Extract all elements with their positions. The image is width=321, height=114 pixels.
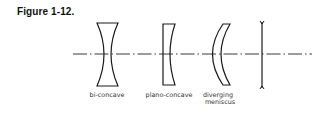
label-plano-concave: plano-concave <box>141 92 197 99</box>
plano-concave-lens <box>163 24 175 85</box>
label-bi-concave: bi-concave <box>84 92 130 99</box>
diverging-meniscus-lens <box>213 24 231 85</box>
thin-lens-symbol <box>260 21 264 89</box>
bi-concave-lens <box>97 23 118 86</box>
label-meniscus: meniscus <box>199 99 241 106</box>
